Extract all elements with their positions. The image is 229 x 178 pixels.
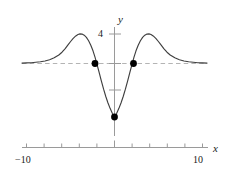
y-axis-label: y [118,14,123,25]
x-tick-label-max: 10 [193,155,203,165]
plot-canvas [0,0,229,178]
y-tick-label-4: 4 [98,29,103,39]
x-axis-ticks [27,141,203,148]
x-axis-label: x [213,143,218,154]
marked-point-right-crossing [130,60,137,67]
marked-point-minimum [111,114,118,121]
marked-point-left-crossing [92,60,99,67]
x-tick-label-min: −10 [15,155,31,165]
function-plot-figure: y x 4 −10 10 [0,0,229,178]
